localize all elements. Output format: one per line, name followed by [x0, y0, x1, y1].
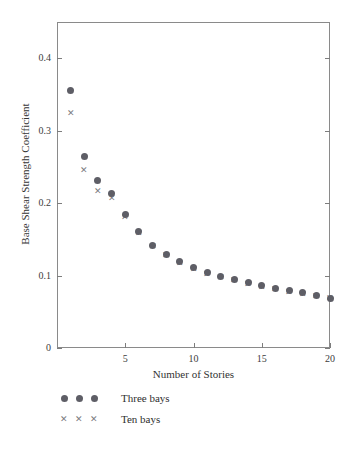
data-point-marker — [163, 251, 170, 258]
x-marker-icon — [90, 415, 99, 424]
y-axis-tick-label: 0.2 — [11, 198, 51, 208]
circle-marker-icon — [76, 395, 83, 402]
data-point-marker — [67, 87, 74, 94]
data-point-marker — [286, 287, 293, 294]
chart-legend: Three bays Ten bays — [57, 390, 307, 432]
circle-marker-icon — [61, 395, 68, 402]
data-point-marker — [149, 242, 156, 249]
x-axis-label: Number of Stories — [57, 368, 330, 380]
data-point-marker — [272, 285, 279, 292]
x-axis-tick-label: 5 — [110, 354, 140, 364]
y-axis-tick-label: 0 — [11, 343, 51, 353]
data-point-marker — [231, 276, 238, 283]
data-point-marker — [327, 295, 334, 302]
y-axis-tick-mark — [57, 58, 62, 59]
legend-label: Ten bays — [121, 413, 160, 425]
data-point-marker — [66, 109, 75, 118]
y-axis-tick-mark — [57, 131, 62, 132]
data-point-marker — [204, 269, 211, 276]
x-marker-icon — [75, 415, 84, 424]
circle-marker-icon — [91, 395, 98, 402]
legend-item-ten-bays: Ten bays — [57, 411, 307, 432]
y-axis-label: Base Shear Strength Coefficient — [19, 64, 31, 284]
chart-figure: 00.10.20.30.45101520 Base Shear Strength… — [0, 0, 355, 451]
legend-marker-sample-circles — [57, 390, 113, 406]
x-axis-tick-label: 15 — [247, 354, 277, 364]
x-axis-tick-mark — [262, 343, 263, 348]
data-point-marker — [80, 166, 89, 175]
x-axis-tick-label: 20 — [315, 354, 345, 364]
legend-label: Three bays — [121, 392, 170, 404]
x-axis-tick-mark — [125, 343, 126, 348]
x-axis-tick-mark — [330, 343, 331, 348]
y-axis-tick-mark — [325, 131, 330, 132]
y-axis-tick-mark — [325, 348, 330, 349]
y-axis-tick-mark — [57, 203, 62, 204]
y-axis-tick-mark — [325, 203, 330, 204]
y-axis-tick-mark — [57, 348, 62, 349]
y-axis-tick-mark — [325, 58, 330, 59]
data-point-marker — [122, 211, 129, 218]
x-axis-tick-mark — [194, 343, 195, 348]
data-point-marker — [93, 187, 102, 196]
x-marker-icon — [60, 415, 69, 424]
y-axis-tick-label: 0.4 — [11, 53, 51, 63]
y-axis-tick-label: 0.3 — [11, 126, 51, 136]
legend-marker-sample-crosses — [57, 411, 113, 427]
y-axis-tick-label: 0.1 — [11, 271, 51, 281]
y-axis-tick-mark — [325, 276, 330, 277]
legend-item-three-bays: Three bays — [57, 390, 307, 411]
data-point-marker — [81, 153, 88, 160]
plot-area — [57, 22, 330, 348]
y-axis-tick-mark — [57, 276, 62, 277]
x-axis-tick-label: 10 — [179, 354, 209, 364]
data-point-marker — [245, 279, 252, 286]
